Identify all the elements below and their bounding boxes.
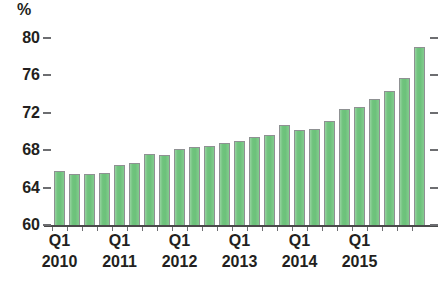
x-axis-tick-mark [247, 227, 248, 231]
x-axis-label-group: Q12015 [330, 232, 390, 272]
x-axis-year-label: 2010 [30, 253, 90, 271]
y-axis-tick-mark-right [430, 224, 438, 226]
bar [54, 171, 65, 225]
x-axis-tick-mark [97, 227, 98, 231]
x-axis-year-label: 2014 [270, 253, 330, 271]
x-axis-label-group: Q12010 [30, 232, 90, 272]
bar [414, 47, 425, 225]
x-axis: Q12010Q12011Q12012Q12013Q12014Q12015 [0, 232, 447, 287]
bar [294, 130, 305, 225]
x-axis-tick-mark [337, 227, 338, 231]
x-axis-tick-mark [232, 227, 233, 231]
bar [339, 109, 350, 225]
x-axis-tick-mark [277, 227, 278, 231]
x-axis-tick-mark [217, 227, 218, 231]
bar [114, 165, 125, 225]
bar [324, 121, 335, 225]
x-axis-quarter-label: Q1 [210, 232, 270, 250]
x-axis-quarter-label: Q1 [90, 232, 150, 250]
y-axis-tick-mark-right [430, 187, 438, 189]
y-axis-tick-label: 76 [0, 67, 40, 83]
x-axis-label-group: Q12013 [210, 232, 270, 272]
x-axis-label-group: Q12011 [90, 232, 150, 272]
x-axis-year-label: 2011 [90, 253, 150, 271]
x-axis-tick-mark [322, 227, 323, 231]
y-axis-tick-label: 68 [0, 142, 40, 158]
x-axis-tick-mark [172, 227, 173, 231]
x-axis-tick-mark [262, 227, 263, 231]
x-axis-tick-mark [367, 227, 368, 231]
y-axis-tick-mark-right [430, 37, 438, 39]
bar [144, 154, 155, 225]
bar [189, 147, 200, 225]
y-axis-tick-label: 60 [0, 217, 40, 233]
x-axis-quarter-label: Q1 [270, 232, 330, 250]
x-axis-tick-mark [352, 227, 353, 231]
bar [129, 163, 140, 225]
bar [174, 149, 185, 225]
x-axis-tick-mark [307, 227, 308, 231]
x-axis-tick-mark [112, 227, 113, 231]
bar [99, 173, 110, 225]
bar [159, 155, 170, 225]
bar-chart: % 807672686460 Q12010Q12011Q12012Q12013Q… [0, 0, 447, 287]
x-axis-tick-mark [397, 227, 398, 231]
x-axis-tick-mark [412, 227, 413, 231]
bar [384, 91, 395, 225]
bar [354, 107, 365, 225]
x-axis-quarter-label: Q1 [330, 232, 390, 250]
bars-layer [52, 38, 427, 225]
x-axis-tick-mark [202, 227, 203, 231]
x-axis-tick-mark [82, 227, 83, 231]
bar [279, 125, 290, 225]
bar [399, 78, 410, 225]
bar [234, 141, 245, 225]
bar [219, 143, 230, 225]
x-axis-year-label: 2012 [150, 253, 210, 271]
x-axis-year-label: 2015 [330, 253, 390, 271]
x-axis-tick-mark [127, 227, 128, 231]
x-axis-tick-mark [52, 227, 53, 231]
x-axis-tick-mark [142, 227, 143, 231]
x-axis-label-group: Q12014 [270, 232, 330, 272]
y-axis-tick-mark-left [43, 224, 51, 226]
bar [69, 174, 80, 225]
y-axis-tick-mark-left [43, 37, 51, 39]
x-axis-label-group: Q12012 [150, 232, 210, 272]
x-axis-tick-mark [67, 227, 68, 231]
bar [309, 129, 320, 225]
x-axis-tick-mark [382, 227, 383, 231]
y-axis-tick-mark-left [43, 112, 51, 114]
y-axis-tick-mark-right [430, 149, 438, 151]
bar [204, 146, 215, 225]
bar [84, 174, 95, 225]
y-axis-tick-mark-left [43, 187, 51, 189]
bar [264, 135, 275, 225]
y-axis-tick-label: 64 [0, 180, 40, 196]
x-axis-tick-mark [187, 227, 188, 231]
y-axis-tick-mark-right [430, 112, 438, 114]
x-axis-baseline [44, 225, 438, 227]
plot-area [52, 38, 427, 225]
y-axis-tick-mark-right [430, 74, 438, 76]
y-axis-tick-mark-left [43, 149, 51, 151]
x-axis-quarter-label: Q1 [150, 232, 210, 250]
y-axis-tick-label: 72 [0, 105, 40, 121]
bar [369, 99, 380, 225]
bar [249, 137, 260, 225]
y-axis-tick-label: 80 [0, 30, 40, 46]
x-axis-quarter-label: Q1 [30, 232, 90, 250]
x-axis-tick-mark [157, 227, 158, 231]
x-axis-year-label: 2013 [210, 253, 270, 271]
y-axis-tick-mark-left [43, 74, 51, 76]
x-axis-tick-mark [292, 227, 293, 231]
